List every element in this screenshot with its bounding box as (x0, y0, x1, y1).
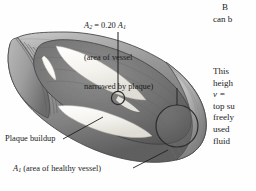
body-top-line2: can b (213, 14, 256, 26)
body-text-top: B can b (213, 2, 256, 25)
body-mid-line5: freely (213, 112, 256, 124)
a2-callout: A2 = 0.20 A1 (area of vessel narrowed by… (84, 2, 153, 111)
plaque-buildup-label: Plaque buildup (5, 134, 55, 144)
a2-relation: = (92, 21, 101, 30)
a2-equation: A2 = 0.20 A1 (84, 21, 153, 33)
a1-callout: A1 (area of healthy vessel) (13, 164, 101, 176)
a1-callout-text: (area of healthy vessel) (21, 164, 101, 173)
a2-callout-line2: (area of vessel (84, 53, 153, 63)
body-mid-line4: top su (213, 101, 256, 113)
body-mid-line7: fluid (213, 136, 256, 148)
a2-coefficient: 0.20 (101, 21, 116, 30)
body-top-line1: B (213, 2, 256, 14)
a1-cross-section-circle (156, 105, 198, 147)
body-text-middle: This heigh v = top su freely used fluid (213, 66, 256, 147)
body-mid-line2: heigh (213, 78, 256, 90)
figure-page: A2 = 0.20 A1 (area of vessel narrowed by… (0, 0, 256, 191)
a2-callout-line3: narrowed by plaque) (84, 82, 153, 92)
a1-subscript-inline: 1 (123, 25, 126, 31)
body-mid-line6: used (213, 124, 256, 136)
body-mid-line1: This (213, 66, 256, 78)
body-mid-line3: v = (213, 89, 256, 101)
